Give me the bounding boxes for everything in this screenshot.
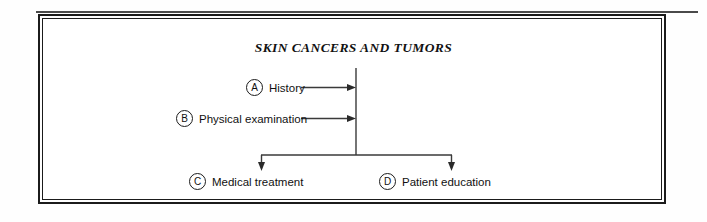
flow-node-history-label: History — [269, 82, 305, 94]
badge-c-icon: C — [189, 173, 206, 190]
flow-node-physical-examination-label: Physical examination — [199, 113, 307, 125]
flow-node-history: A History — [246, 79, 305, 96]
flow-node-medical-treatment: C Medical treatment — [189, 173, 303, 190]
flow-node-patient-education-label: Patient education — [402, 176, 491, 188]
flow-node-physical-examination: B Physical examination — [176, 110, 307, 127]
badge-a-icon: A — [246, 79, 263, 96]
badge-d-icon: D — [379, 173, 396, 190]
badge-b-icon: B — [176, 110, 193, 127]
page-canvas: SKIN CANCERS AND TUMORS A History B Phys… — [0, 0, 707, 222]
top-rule-divider — [36, 11, 698, 13]
flow-node-patient-education: D Patient education — [379, 173, 491, 190]
flow-node-medical-treatment-label: Medical treatment — [212, 176, 303, 188]
diagram-title: SKIN CANCERS AND TUMORS — [0, 40, 707, 56]
